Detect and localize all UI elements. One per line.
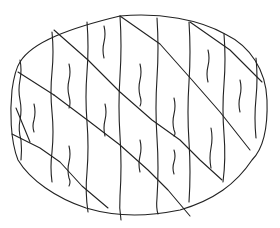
- sketch-canvas: [0, 0, 280, 228]
- oval-pattern-drawing: [0, 0, 280, 228]
- vertical-lines: [19, 16, 257, 220]
- oval-outline: [11, 15, 267, 215]
- short-wavy-marks: [33, 26, 241, 186]
